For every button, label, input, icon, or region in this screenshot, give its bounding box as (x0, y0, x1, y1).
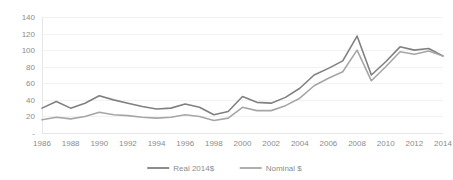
y-tick-label: 20 (26, 112, 35, 121)
x-tick-label: 1998 (205, 139, 223, 148)
line-chart-figure: -20406080100120140 198619881990199219941… (0, 0, 453, 180)
legend-label: Real 2014$ (173, 164, 214, 173)
y-tick-label: 80 (26, 63, 35, 72)
y-tick-label: 100 (22, 46, 36, 55)
chart-canvas: -20406080100120140 198619881990199219941… (0, 0, 453, 180)
x-tick-label: 1996 (176, 139, 194, 148)
x-tick-label: 2014 (434, 139, 452, 148)
x-tick-label: 2008 (348, 139, 366, 148)
chart-legend: Real 2014$Nominal $ (147, 164, 302, 173)
y-axis-tick-labels: -20406080100120140 (22, 13, 36, 138)
x-tick-label: 1990 (90, 139, 108, 148)
y-tick-label: 140 (22, 13, 36, 22)
x-tick-label: 2006 (320, 139, 338, 148)
y-tick-label: 120 (22, 30, 36, 39)
series-line (42, 36, 443, 115)
x-tick-label: 1994 (148, 139, 166, 148)
x-tick-label: 2000 (234, 139, 252, 148)
y-tick-label: 40 (26, 96, 35, 105)
y-tick-label: 60 (26, 79, 35, 88)
x-tick-label: 2012 (405, 139, 423, 148)
x-tick-label: 2010 (377, 139, 395, 148)
legend-label: Nominal $ (266, 164, 303, 173)
data-series (42, 36, 443, 121)
x-axis-tick-labels: 1986198819901992199419961998200020022004… (33, 139, 452, 148)
x-tick-label: 2002 (262, 139, 280, 148)
series-line (42, 50, 443, 120)
gridlines (42, 17, 443, 134)
x-tick-label: 1986 (33, 139, 51, 148)
x-tick-label: 2004 (291, 139, 309, 148)
x-tick-label: 1992 (119, 139, 137, 148)
y-tick-label: - (32, 129, 35, 138)
x-tick-label: 1988 (62, 139, 80, 148)
